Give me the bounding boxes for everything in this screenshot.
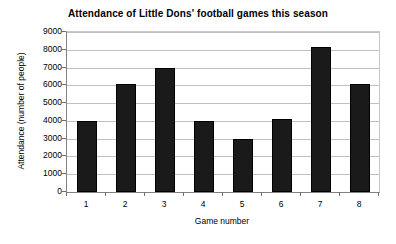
y-axis-tick-label: 3000 <box>20 134 62 142</box>
y-axis-tick-label: 8000 <box>20 45 62 53</box>
x-axis-tick-mark <box>378 192 379 196</box>
x-axis-tick-label: 5 <box>222 199 262 209</box>
bar-chart-figure: Attendance of Little Dons' football game… <box>0 0 396 244</box>
x-axis-tick-label: 8 <box>339 199 379 209</box>
bar <box>272 119 292 192</box>
y-axis-tick-label: 4000 <box>20 116 62 124</box>
y-axis-tick-mark <box>62 155 66 156</box>
x-axis-tick-mark <box>144 192 145 196</box>
x-axis-tick-label: 6 <box>261 199 301 209</box>
x-axis-title: Game number <box>66 216 378 226</box>
gridline <box>67 103 379 104</box>
bar <box>116 84 136 192</box>
y-axis-tick-mark <box>62 49 66 50</box>
plot-inner <box>67 32 379 192</box>
x-axis-tick-mark <box>300 192 301 196</box>
gridline <box>67 85 379 86</box>
y-axis-tick-mark <box>62 102 66 103</box>
y-axis-tick-label: 7000 <box>20 63 62 71</box>
gridline <box>67 32 379 33</box>
bar <box>194 121 214 192</box>
bar <box>350 84 370 192</box>
gridline <box>67 68 379 69</box>
x-axis-tick-label: 4 <box>183 199 223 209</box>
x-axis-tick-mark <box>183 192 184 196</box>
gridline <box>67 121 379 122</box>
y-axis-tick-mark <box>62 31 66 32</box>
x-axis-tick-mark <box>222 192 223 196</box>
y-axis-tick-mark <box>62 173 66 174</box>
gridline <box>67 50 379 51</box>
y-axis-tick-label: 0 <box>20 187 62 195</box>
x-axis-tick-mark <box>105 192 106 196</box>
chart-title: Attendance of Little Dons' football game… <box>0 8 396 19</box>
x-axis-tick-label: 7 <box>300 199 340 209</box>
y-axis-tick-mark <box>62 67 66 68</box>
x-axis-tick-label: 1 <box>66 199 106 209</box>
gridline <box>67 139 379 140</box>
x-axis-tick-mark <box>339 192 340 196</box>
y-axis-tick-mark <box>62 138 66 139</box>
y-axis-tick-label: 2000 <box>20 151 62 159</box>
x-axis-tick-mark <box>261 192 262 196</box>
y-axis-tick-label: 9000 <box>20 27 62 35</box>
plot-area <box>66 31 380 193</box>
y-axis-tick-mark <box>62 84 66 85</box>
y-axis-tick-mark <box>62 120 66 121</box>
x-axis-tick-label: 3 <box>144 199 184 209</box>
bar <box>155 68 175 192</box>
gridline <box>67 174 379 175</box>
gridline <box>67 156 379 157</box>
y-axis-tick-label: 5000 <box>20 98 62 106</box>
y-axis-tick-label: 6000 <box>20 80 62 88</box>
bar <box>77 121 97 192</box>
x-axis-tick-label: 2 <box>105 199 145 209</box>
bar <box>311 47 331 192</box>
bar <box>233 139 253 192</box>
y-axis-tick-label: 1000 <box>20 169 62 177</box>
y-axis-tick-labels: 9000800070006000500040003000200010000 <box>18 31 62 191</box>
x-axis-tick-mark <box>66 192 67 196</box>
